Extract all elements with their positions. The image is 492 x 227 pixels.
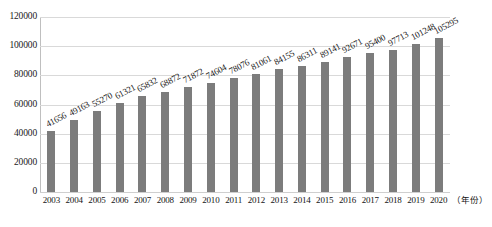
x-tick-label: 2011	[225, 196, 242, 205]
x-tick-label: 2013	[271, 196, 288, 205]
x-tick-label: 2008	[157, 196, 174, 205]
bar-slot[interactable]: 89141	[313, 17, 336, 192]
y-tick-label: 120000	[9, 12, 37, 22]
y-tick-label: 20000	[14, 158, 37, 168]
bar[interactable]	[389, 50, 397, 192]
bar[interactable]	[343, 57, 351, 192]
bars-layer: 4165649163552706132165832688727187274604…	[40, 17, 450, 192]
bar-slot[interactable]: 74604	[199, 17, 222, 192]
y-tick-label: 60000	[14, 100, 37, 110]
x-tick-label: 2014	[293, 196, 310, 205]
plot-area: 4165649163552706132165832688727187274604…	[40, 17, 450, 192]
bar[interactable]	[161, 92, 169, 192]
x-tick-label: 2016	[339, 196, 356, 205]
bar-slot[interactable]: 97713	[382, 17, 405, 192]
bar[interactable]	[230, 78, 238, 192]
bar[interactable]	[298, 66, 306, 192]
bar[interactable]	[412, 44, 420, 192]
bar-slot[interactable]: 61321	[108, 17, 131, 192]
bar-slot[interactable]: 41656	[40, 17, 63, 192]
x-tick-label: 2012	[248, 196, 265, 205]
x-tick-label: 2018	[384, 196, 401, 205]
x-tick-label: 2015	[316, 196, 333, 205]
x-tick-label: 2019	[407, 196, 424, 205]
bar-slot[interactable]: 92671	[336, 17, 359, 192]
y-tick-label: 0	[32, 187, 37, 197]
bar-slot[interactable]: 55270	[86, 17, 109, 192]
bar-slot[interactable]: 65832	[131, 17, 154, 192]
bar-slot[interactable]: 101248	[404, 17, 427, 192]
bar[interactable]	[366, 53, 374, 192]
bar[interactable]	[252, 74, 260, 192]
bar[interactable]	[184, 87, 192, 192]
x-tick-label: 2003	[43, 196, 60, 205]
x-tick-label: 2010	[202, 196, 219, 205]
bar-slot[interactable]: 95400	[359, 17, 382, 192]
bar-slot[interactable]: 78076	[222, 17, 245, 192]
x-tick-label: 2004	[66, 196, 83, 205]
bar[interactable]	[70, 120, 78, 192]
x-axis-unit-label: （年份）	[452, 196, 488, 205]
bar-slot[interactable]: 86311	[291, 17, 314, 192]
y-axis: 020000400006000080000100000120000	[0, 0, 40, 227]
y-tick-label: 40000	[14, 129, 37, 139]
bar[interactable]	[116, 103, 124, 192]
x-tick-label: 2006	[111, 196, 128, 205]
bar-slot[interactable]: 71872	[177, 17, 200, 192]
gridline	[40, 192, 450, 193]
x-tick-label: 2007	[134, 196, 151, 205]
x-axis: 2003200420052006200720082009201020112012…	[40, 196, 450, 210]
x-tick-label: 2005	[88, 196, 105, 205]
bar[interactable]	[321, 62, 329, 192]
bar-slot[interactable]: 49163	[63, 17, 86, 192]
x-tick-label: 2009	[179, 196, 196, 205]
bar-value-label: 105295	[432, 16, 459, 36]
bar[interactable]	[47, 131, 55, 192]
bar[interactable]	[435, 38, 443, 192]
bar[interactable]	[93, 111, 101, 192]
y-tick-label: 80000	[14, 71, 37, 81]
bar-slot[interactable]: 84155	[268, 17, 291, 192]
bar[interactable]	[275, 69, 283, 192]
y-tick-label: 100000	[9, 41, 37, 51]
x-tick-label: 2020	[430, 196, 447, 205]
x-tick-label: 2017	[362, 196, 379, 205]
bar-slot[interactable]: 68872	[154, 17, 177, 192]
bar[interactable]	[207, 83, 215, 192]
bar-slot[interactable]: 105295	[427, 17, 450, 192]
bar[interactable]	[138, 96, 146, 192]
bar-slot[interactable]: 81061	[245, 17, 268, 192]
bar-chart-figure: 020000400006000080000100000120000 416564…	[0, 0, 492, 227]
